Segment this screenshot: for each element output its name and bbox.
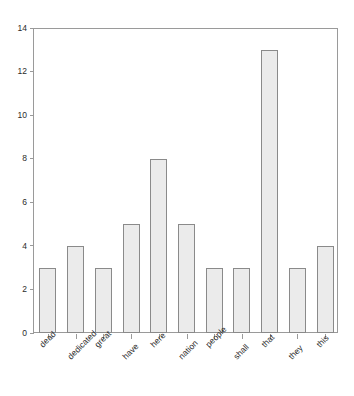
bar [39, 268, 56, 333]
bar [67, 246, 84, 333]
x-axis-label-shall: shall [232, 343, 250, 361]
x-axis-tick-mark [242, 334, 243, 339]
x-axis-label-they: they [287, 344, 304, 361]
x-axis-label-nation: nation [177, 339, 199, 361]
x-axis-tick-mark [131, 334, 132, 339]
y-axis-tick-label: 0 [22, 328, 27, 337]
y-axis: 02468101214 [0, 0, 34, 396]
x-axis-label-have: have [121, 342, 140, 361]
bar [261, 50, 278, 333]
bar [178, 224, 195, 333]
y-axis-tick-label: 12 [18, 67, 27, 76]
y-axis-tick-label: 4 [22, 241, 27, 250]
y-axis-tick-label: 6 [22, 198, 27, 207]
x-axis-label-that: that [260, 333, 276, 349]
y-axis-tick-label: 10 [18, 110, 27, 119]
bar [233, 268, 250, 333]
bar [95, 268, 112, 333]
bar [289, 268, 306, 333]
bar [206, 268, 223, 333]
x-axis-tick-mark [297, 334, 298, 339]
bar [150, 159, 167, 333]
bar-chart: 02468101214 deaddedicatedgreathaveherena… [0, 0, 354, 396]
x-axis-tick-mark [187, 334, 188, 339]
bar [123, 224, 140, 333]
y-axis-tick-label: 14 [18, 23, 27, 32]
x-axis-label-this: this [315, 334, 330, 349]
x-axis-label-dedicated: dedicated [66, 329, 98, 361]
y-axis-tick-label: 2 [22, 285, 27, 294]
x-axis-tick-mark [76, 334, 77, 339]
y-axis-tick-label: 8 [22, 154, 27, 163]
bar [317, 246, 334, 333]
x-axis-label-here: here [149, 331, 167, 349]
